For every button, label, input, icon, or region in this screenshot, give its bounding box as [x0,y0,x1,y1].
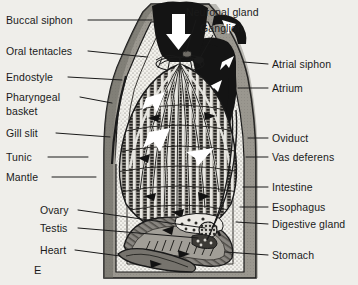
label-tunic: Tunic [6,151,32,163]
label-oral-tentacles: Oral tentacles [6,45,72,57]
label-mantle: Mantle [6,171,38,183]
label-stomach: Stomach [272,249,314,261]
neuronal-gland [183,51,192,57]
label-atrial-siphon: Atrial siphon [272,58,331,70]
label-ganglion: Ganglion [200,22,243,34]
label-atrium: Atrium [272,82,303,94]
label-esophagus: Esophagus [272,201,325,213]
label-buccal-siphon: Buccal siphon [6,14,73,26]
label-digestive-gland: Digestive gland [272,218,345,230]
label-pharyngeal-basket-line2: basket [6,105,38,117]
label-ovary: Ovary [40,204,69,216]
label-endostyle: Endostyle [6,71,53,83]
label-pharyngeal-basket-line1: Pharyngeal [6,91,60,103]
label-gill-slit: Gill slit [6,127,38,139]
label-heart: Heart [40,244,66,256]
label-testis: Testis [40,222,67,234]
leader-gill-slit [56,133,110,137]
anatomy-figure: Buccal siphon Oral tentacles Endostyle P… [0,0,358,285]
panel-letter: E [34,264,42,276]
label-vas-deferens: Vas deferens [272,151,334,163]
label-intestine: Intestine [272,181,313,193]
label-oviduct: Oviduct [272,132,308,144]
label-neuronal-gland: Neuronal gland [186,6,259,18]
leader-pharyngeal-basket [80,97,112,103]
